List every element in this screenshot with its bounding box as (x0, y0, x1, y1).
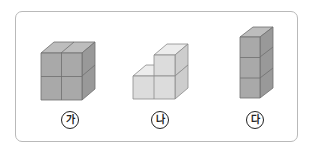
figure-na-cubes (133, 44, 188, 99)
figure-label-da: 다 (246, 111, 264, 129)
figure-label-ga: 가 (61, 111, 79, 129)
figure-ga-cubes (41, 42, 95, 100)
figure-da-cubes (240, 27, 273, 98)
figure-label-na: 나 (151, 111, 169, 129)
